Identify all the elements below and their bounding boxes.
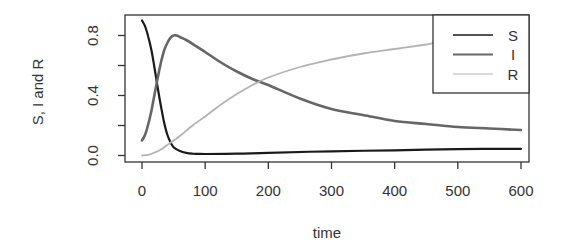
x-tick-label: 300	[319, 182, 344, 199]
y-axis-label: S, I and R	[29, 58, 46, 125]
x-tick-label: 0	[138, 182, 146, 199]
x-tick-label: 600	[508, 182, 533, 199]
y-tick-label: 0.0	[84, 145, 101, 166]
x-axis-label: time	[313, 224, 341, 241]
legend-label-i: I	[511, 46, 515, 63]
x-tick-label: 200	[256, 182, 281, 199]
x-tick-label: 100	[193, 182, 218, 199]
y-tick-label: 0.4	[84, 85, 101, 106]
legend-label-r: R	[508, 66, 519, 83]
sir-chart: 0100200300400500600 0.00.40.8 time S, I …	[0, 0, 562, 250]
x-tick-label: 500	[445, 182, 470, 199]
x-axis: 0100200300400500600	[138, 162, 534, 199]
y-tick-label: 0.8	[84, 25, 101, 46]
legend-label-s: S	[508, 27, 518, 44]
y-axis: 0.00.40.8	[84, 25, 125, 166]
x-tick-label: 400	[382, 182, 407, 199]
legend: SIR	[433, 15, 529, 93]
series-line-r	[142, 43, 433, 156]
